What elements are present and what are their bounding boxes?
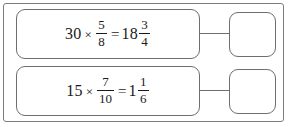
math-expression: 30 × 5 8 = 18 3 4	[65, 19, 151, 49]
mixed-number-result: 18 3 4	[121, 19, 151, 49]
math-expression: 15 × 7 10 = 1 1 6	[66, 76, 150, 106]
fraction-numerator: 5	[96, 18, 107, 33]
multiplication-operator: ×	[85, 28, 92, 41]
equals-sign: =	[111, 27, 119, 42]
answer-box[interactable]	[229, 12, 276, 57]
equation-row: 30 × 5 8 = 18 3 4	[4, 9, 285, 59]
mixed-fraction-part: 3 4	[139, 18, 150, 48]
equation-box[interactable]: 30 × 5 8 = 18 3 4	[16, 9, 200, 59]
worksheet-frame: 30 × 5 8 = 18 3 4	[3, 3, 284, 122]
multiplication-operator: ×	[86, 85, 93, 98]
fraction-denominator: 10	[97, 91, 114, 106]
equation-box[interactable]: 15 × 7 10 = 1 1 6	[16, 66, 200, 116]
fraction-numerator: 3	[139, 18, 150, 33]
fraction-numerator: 7	[100, 75, 111, 90]
fraction-multiplier: 5 8	[96, 18, 107, 48]
mixed-whole-part: 18	[121, 26, 138, 42]
multiplicand: 30	[65, 26, 82, 42]
fraction-numerator: 1	[138, 75, 149, 90]
fraction-multiplier: 7 10	[97, 75, 114, 105]
mixed-fraction-part: 1 6	[138, 75, 149, 105]
fraction-denominator: 8	[96, 34, 107, 49]
connector-line	[200, 33, 230, 34]
connector-line	[200, 90, 230, 91]
mixed-number-result: 1 1 6	[129, 76, 150, 106]
answer-box[interactable]	[229, 69, 276, 114]
equals-sign: =	[118, 84, 126, 99]
mixed-whole-part: 1	[129, 83, 137, 99]
multiplicand: 15	[66, 83, 83, 99]
fraction-denominator: 6	[138, 91, 149, 106]
equation-row: 15 × 7 10 = 1 1 6	[4, 66, 285, 116]
fraction-denominator: 4	[139, 34, 150, 49]
